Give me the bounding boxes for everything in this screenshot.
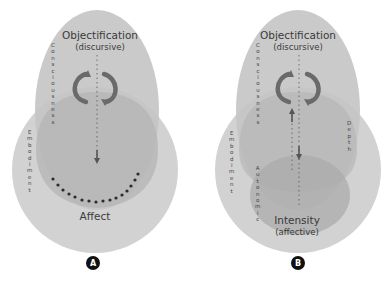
intensity-label: Intensity: [267, 214, 327, 226]
panel-a: Objectification (discursive) Affect Cons…: [0, 0, 194, 282]
affective-sublabel: (affective): [267, 227, 327, 237]
panel-b: Objectification (discursive) Intensity (…: [195, 0, 389, 282]
embodiment-label: Embodiment: [229, 130, 234, 194]
panel-b-badge: B: [291, 256, 305, 270]
objectification-title: Objectification: [258, 29, 338, 41]
embodiment-label: Embodiment: [27, 129, 32, 193]
objectification-title: Objectification: [60, 29, 140, 41]
autonomic-label: Autonomic: [255, 165, 260, 223]
consciousness-label: Consciousness: [256, 42, 260, 125]
depth-label: Depth: [347, 120, 351, 152]
consciousness-label: Consciousness: [51, 42, 55, 125]
panel-a-badge: A: [86, 256, 100, 270]
affect-label: Affect: [70, 210, 120, 222]
discursive-subtitle: (discursive): [258, 42, 338, 52]
discursive-subtitle: (discursive): [60, 42, 140, 52]
